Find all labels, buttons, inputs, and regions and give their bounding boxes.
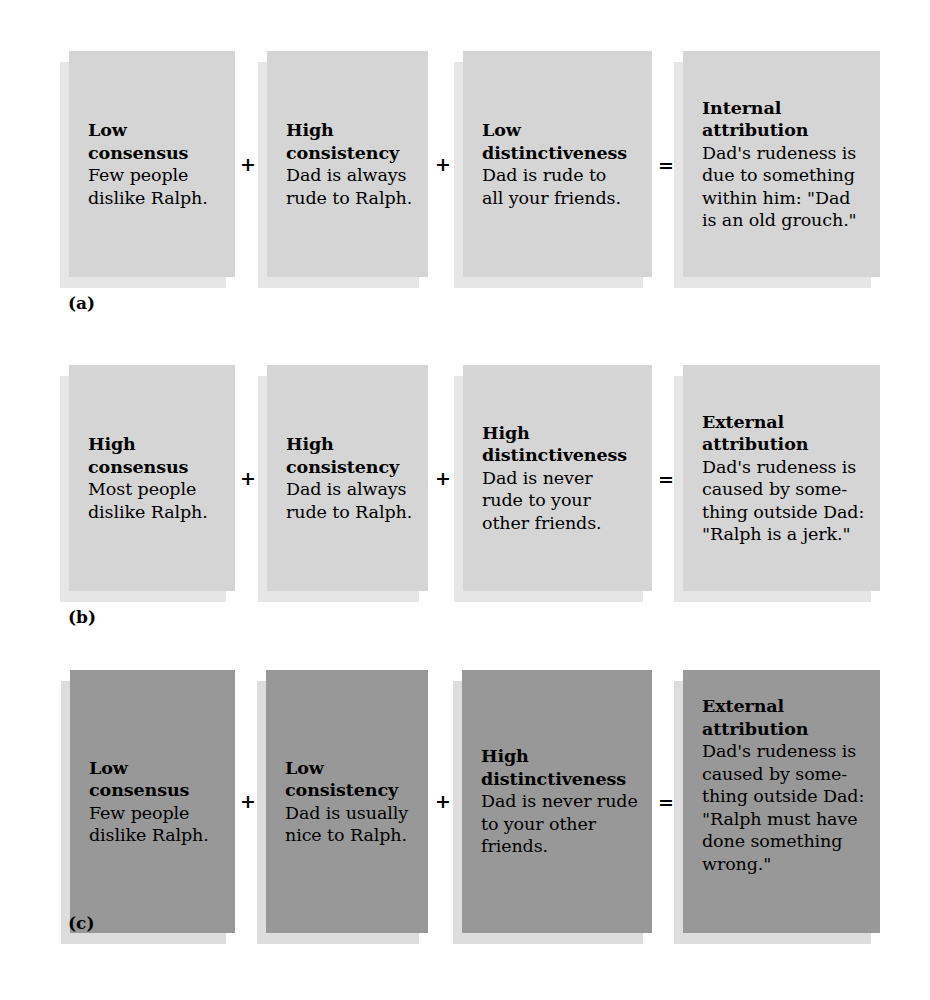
card-body-line: dislike Ralph. (88, 501, 225, 524)
card-heading-line: External (702, 411, 870, 434)
card-body-line: Dad is usually (285, 802, 418, 825)
card-body-line: dislike Ralph. (89, 824, 225, 847)
operator-plus-a-1: + (236, 155, 260, 174)
card-body-line: Dad is rude to (482, 164, 642, 187)
operator-plus-b-2: + (431, 469, 455, 488)
operator-plus-a-2: + (431, 155, 455, 174)
card-heading-line: Low (89, 757, 225, 780)
card-body-line: Dad's rudeness is (702, 456, 870, 479)
card-c-3: High distinctiveness Dad is never rude t… (462, 670, 652, 933)
card-body-line: all your friends. (482, 187, 642, 210)
card-content: Low consensus Few people dislike Ralph. (70, 670, 235, 933)
card-content: External attribution Dad's rudeness is c… (683, 365, 880, 591)
card-content: Low distinctiveness Dad is rude to all y… (463, 51, 652, 277)
panel-b: High consensus Most people dislike Ralph… (0, 330, 930, 635)
operator-plus-c-2: + (431, 792, 455, 811)
card-heading-line: consensus (88, 142, 225, 165)
card-body-line: dislike Ralph. (88, 187, 225, 210)
card-body-line: is an old grouch." (702, 209, 870, 232)
card-body-line: friends. (481, 835, 642, 858)
panel-label-b: (b) (68, 607, 96, 627)
card-c-4: External attribution Dad's rudeness is c… (683, 670, 880, 933)
card-b-4: External attribution Dad's rudeness is c… (683, 365, 880, 591)
card-body-line: "Ralph is a jerk." (702, 523, 870, 546)
card-heading-line: consistency (286, 142, 418, 165)
operator-plus-b-1: + (236, 469, 260, 488)
card-heading-line: External (702, 695, 870, 718)
panel-a: Low consensus Few people dislike Ralph. … (0, 0, 930, 330)
card-heading-line: distinctiveness (481, 768, 642, 791)
card-body-line: Dad's rudeness is (702, 142, 870, 165)
card-body-line: to your other (481, 813, 642, 836)
card-content: High consistency Dad is always rude to R… (267, 51, 428, 277)
card-b-2: High consistency Dad is always rude to R… (267, 365, 428, 591)
card-a-1: Low consensus Few people dislike Ralph. (69, 51, 235, 277)
card-body-line: thing outside Dad: (702, 785, 870, 808)
card-a-3: Low distinctiveness Dad is rude to all y… (463, 51, 652, 277)
card-body-line: Dad's rudeness is (702, 740, 870, 763)
card-body-line: due to something (702, 164, 870, 187)
card-heading-line: Low (482, 119, 642, 142)
card-heading-line: consensus (88, 456, 225, 479)
card-heading-line: Internal (702, 97, 870, 120)
card-body-line: nice to Ralph. (285, 824, 418, 847)
card-c-1: Low consensus Few people dislike Ralph. (70, 670, 235, 933)
card-body-line: Dad is never rude (481, 790, 642, 813)
card-content: Low consistency Dad is usually nice to R… (266, 670, 428, 933)
card-body-line: rude to Ralph. (286, 501, 418, 524)
card-heading-line: Low (285, 757, 418, 780)
card-body-line: Dad is never (482, 467, 642, 490)
card-body-line: rude to Ralph. (286, 187, 418, 210)
card-heading-line: High (286, 119, 418, 142)
card-content: High distinctiveness Dad is never rude t… (462, 670, 652, 933)
card-heading-line: High (88, 433, 225, 456)
card-heading-line: High (286, 433, 418, 456)
card-heading-line: High (482, 422, 642, 445)
card-b-1: High consensus Most people dislike Ralph… (69, 365, 235, 591)
panel-c: Low consensus Few people dislike Ralph. … (0, 635, 930, 1000)
card-content: Internal attribution Dad's rudeness is d… (683, 51, 880, 277)
card-body-line: caused by some- (702, 763, 870, 786)
panel-label-a: (a) (68, 293, 95, 313)
card-body-line: Most people (88, 478, 225, 501)
card-heading-line: consensus (89, 779, 225, 802)
card-heading-line: attribution (702, 119, 870, 142)
card-content: High distinctiveness Dad is never rude t… (463, 365, 652, 591)
card-content: High consistency Dad is always rude to R… (267, 365, 428, 591)
card-heading-line: distinctiveness (482, 444, 642, 467)
card-content: External attribution Dad's rudeness is c… (683, 670, 880, 933)
card-heading-line: attribution (702, 718, 870, 741)
panel-label-c: (c) (68, 913, 94, 933)
card-heading-line: distinctiveness (482, 142, 642, 165)
card-a-4: Internal attribution Dad's rudeness is d… (683, 51, 880, 277)
card-heading-line: attribution (702, 433, 870, 456)
card-c-2: Low consistency Dad is usually nice to R… (266, 670, 428, 933)
card-heading-line: Low (88, 119, 225, 142)
card-heading-line: consistency (286, 456, 418, 479)
card-heading-line: High (481, 745, 642, 768)
card-a-2: High consistency Dad is always rude to R… (267, 51, 428, 277)
card-heading-line: consistency (285, 779, 418, 802)
card-body-line: done something (702, 830, 870, 853)
card-body-line: within him: "Dad (702, 187, 870, 210)
card-body-line: Dad is always (286, 478, 418, 501)
card-b-3: High distinctiveness Dad is never rude t… (463, 365, 652, 591)
card-body-line: Few people (89, 802, 225, 825)
card-body-line: caused by some- (702, 478, 870, 501)
card-body-line: Dad is always (286, 164, 418, 187)
card-body-line: "Ralph must have (702, 808, 870, 831)
card-body-line: rude to your (482, 489, 642, 512)
card-content: High consensus Most people dislike Ralph… (69, 365, 235, 591)
card-content: Low consensus Few people dislike Ralph. (69, 51, 235, 277)
card-body-line: Few people (88, 164, 225, 187)
card-body-line: other friends. (482, 512, 642, 535)
attribution-diagram: Low consensus Few people dislike Ralph. … (0, 0, 930, 1000)
card-body-line: thing outside Dad: (702, 501, 870, 524)
card-body-line: wrong." (702, 853, 870, 876)
